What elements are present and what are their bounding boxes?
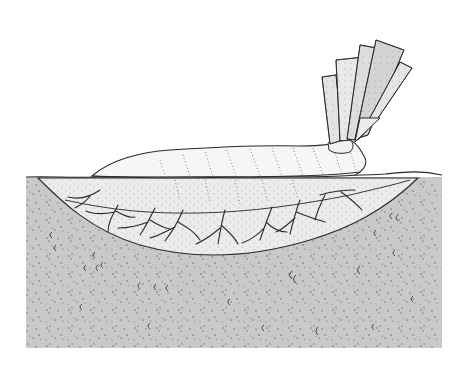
organism-in-sediment-illustration (0, 0, 469, 369)
frond-fan (322, 40, 412, 144)
illustration-canvas: Line illustration of a soft-bodied organ… (0, 0, 469, 369)
